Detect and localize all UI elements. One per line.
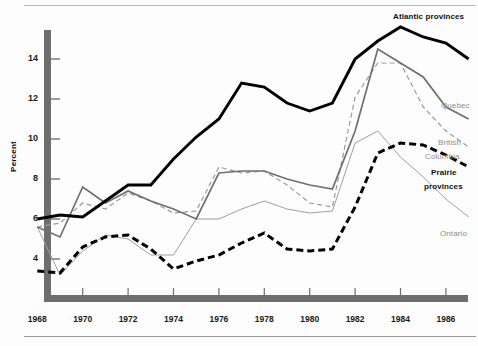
series-label-ontario: Ontario: [440, 229, 467, 238]
x-axis-bar: [44, 295, 468, 302]
series-label-british-columbia-line2: Columbia: [425, 152, 460, 161]
x-tick-label: 1984: [381, 314, 421, 324]
y-tick-label: 14: [18, 53, 38, 63]
x-tick-label: 1972: [108, 314, 148, 324]
x-tick-label: 1968: [17, 314, 57, 324]
series-label-prairie-provinces-line2: provinces: [424, 182, 463, 191]
y-tick-marks: [51, 59, 60, 259]
y-tick-label: 6: [18, 213, 38, 223]
x-tick-label: 1976: [199, 314, 239, 324]
y-tick-label: 10: [18, 133, 38, 143]
x-tick-label: 1974: [154, 314, 194, 324]
series-label-british-columbia-line1: British: [438, 138, 461, 147]
series-label-quebec: Quebec: [441, 101, 470, 110]
series-label-prairie-provinces-line1: Prairie: [431, 168, 457, 177]
series-label-atlantic-provinces: Atlantic provinces: [393, 12, 464, 21]
x-tick-label: 1980: [290, 314, 330, 324]
x-tick-marks: [83, 288, 446, 296]
series-line-atlantic-provinces: [37, 27, 468, 219]
x-tick-label: 1982: [335, 314, 375, 324]
plot-area: [0, 0, 478, 346]
y-tick-label: 4: [18, 253, 38, 263]
y-axis-bar: [44, 30, 51, 302]
series-line-prairie-provinces: [37, 143, 468, 273]
unemployment-rate-line-chart: Percent 468101214 1968197019721974197619…: [0, 0, 478, 346]
x-tick-label: 1986: [426, 314, 466, 324]
y-tick-label: 12: [18, 93, 38, 103]
y-tick-label: 8: [18, 173, 38, 183]
x-tick-label: 1970: [63, 314, 103, 324]
x-tick-label: 1978: [244, 314, 284, 324]
series-paths: [37, 27, 468, 275]
